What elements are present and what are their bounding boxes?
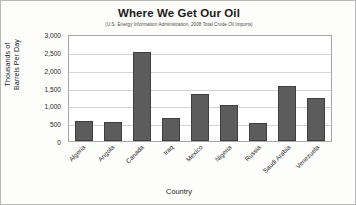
x-axis-title: Country [1, 187, 356, 196]
x-tick-slot: Angola [97, 143, 126, 183]
bar[interactable] [133, 52, 151, 141]
bar[interactable] [307, 98, 325, 141]
y-axis-tick-label: 2,000 [44, 67, 61, 74]
bar-slot [156, 36, 185, 141]
bar-series [69, 36, 331, 141]
x-tick-slot: Iraq [156, 143, 185, 183]
chart-figure: Where We Get Our Oil (U.S. Energy Inform… [0, 0, 356, 205]
bar[interactable] [220, 105, 238, 141]
bar-slot [244, 36, 273, 141]
y-axis-tick-label: 500 [50, 121, 61, 128]
bar[interactable] [278, 86, 296, 141]
bar-slot [69, 36, 98, 141]
bar-slot [185, 36, 214, 141]
y-axis-tick-label: 0 [57, 139, 61, 146]
chart-title: Where We Get Our Oil [1, 7, 356, 19]
bar-slot [273, 36, 302, 141]
y-axis-tick-label: 2,500 [44, 49, 61, 56]
x-tick-slot: Mexico [185, 143, 214, 183]
plot-area [68, 35, 332, 142]
bar-slot [98, 36, 127, 141]
y-axis-tick-label: 1,000 [44, 103, 61, 110]
y-axis-tick-labels: 05001,0001,5002,0002,5003,000 [29, 35, 64, 142]
bar-slot [302, 36, 331, 141]
chart-subtitle: (U.S. Energy Information Administration,… [1, 22, 356, 27]
x-axis-tick-label: Canada [124, 144, 145, 165]
bar-slot [215, 36, 244, 141]
x-tick-slot: Algeria [68, 143, 97, 183]
bar[interactable] [162, 118, 180, 141]
x-axis-tick-label: Angola [97, 144, 116, 163]
x-axis-tick-label: Russia [243, 144, 262, 163]
x-axis-tick-labels: AlgeriaAngolaCanadaIraqMexicoNigeriaRuss… [68, 143, 332, 183]
x-axis-tick-label: Nigeria [214, 144, 233, 163]
bar[interactable] [249, 123, 267, 141]
bar[interactable] [104, 122, 122, 141]
x-axis-tick-label: Iraq [161, 144, 174, 157]
x-tick-slot: Canada [127, 143, 156, 183]
y-axis-tick-label: 1,500 [44, 85, 61, 92]
y-axis-tick-label: 3,000 [44, 32, 61, 39]
bar[interactable] [75, 121, 93, 141]
x-axis-tick-label: Algeria [67, 144, 86, 163]
bar-slot [127, 36, 156, 141]
y-axis-title: Thousands of Barrels Per Day [4, 31, 21, 99]
x-tick-slot: Venezuela [303, 143, 332, 183]
x-axis-tick-label: Mexico [184, 144, 203, 163]
x-tick-slot: Nigeria [215, 143, 244, 183]
y-axis-title-line-2: Barrels Per Day [13, 31, 22, 99]
bar[interactable] [191, 94, 209, 141]
